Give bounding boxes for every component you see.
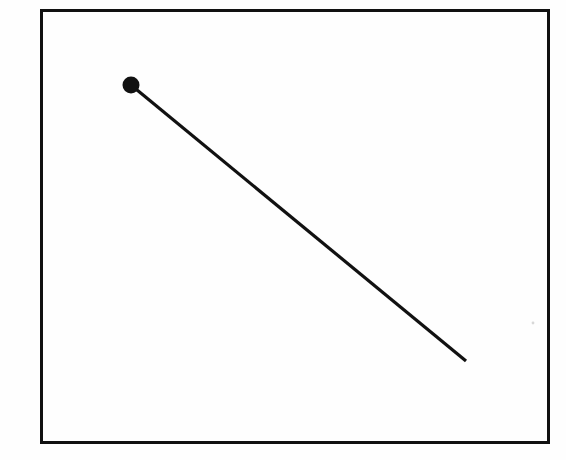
line-chart-svg — [0, 0, 566, 460]
plot-frame — [41, 10, 548, 442]
data-point-marker — [123, 77, 140, 94]
data-line-segment — [131, 85, 466, 361]
figure-root — [0, 0, 566, 460]
scan-speck-icon — [532, 322, 535, 325]
